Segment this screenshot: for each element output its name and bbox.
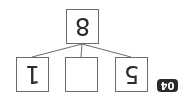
child-node-value: 1 [25, 63, 40, 87]
child-node-box-2-blank[interactable] [65, 57, 98, 92]
child-node-box-3: 1 [16, 57, 49, 92]
problem-number: 04 [161, 80, 175, 91]
child-node-value: 5 [124, 63, 139, 87]
child-node-box-1: 5 [115, 57, 148, 92]
top-node-box: 8 [66, 9, 99, 44]
rotated-content: 8 5 1 04 [0, 0, 190, 103]
problem-number-badge: 04 [157, 79, 178, 92]
top-node-value: 8 [75, 15, 90, 39]
number-bond-diagram: 8 5 1 04 [0, 0, 190, 103]
